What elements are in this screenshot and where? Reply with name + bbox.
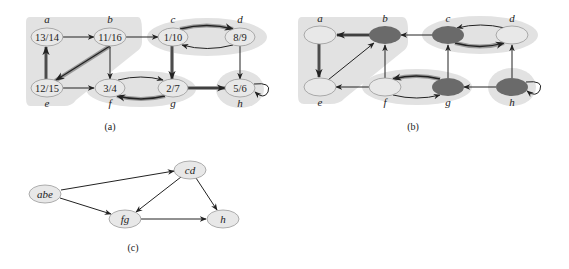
node-abe: abe [29,185,61,203]
node-h: h [207,210,239,228]
node-cd-label: cd [185,164,196,176]
node-h-times: 5/6 [233,83,246,94]
caption-a: (a) [104,121,115,133]
panel-a: 13/14 a 11/16 b 1/10 c 8/9 d 12/15 e 3/4… [26,13,269,133]
node-fg: fg [109,210,141,228]
caption-c: (c) [127,242,138,254]
node-b-label: b [107,13,113,25]
node-e-times: 12/15 [35,83,59,94]
edge-cd-fg [136,177,181,212]
node-abe-label: abe [37,188,53,200]
panel-b: a b c d e f g h (b) [298,12,541,133]
node-h-label: h [509,96,515,108]
node-g-times: 2/7 [166,83,179,94]
edge-cd-h [196,178,217,210]
scc-figure: 13/14 a 11/16 b 1/10 c 8/9 d 12/15 e 3/4… [0,0,569,269]
node-c-times: 1/10 [164,32,183,43]
node-d-label: d [237,13,243,25]
node-c-label: c [171,13,176,25]
node-d-label: d [509,12,515,24]
node-c-label: c [446,12,451,24]
node-fg-label: fg [121,213,130,225]
node-h-label: h [237,97,243,109]
edge-abe-fg [60,198,111,214]
node-cd: cd [174,161,206,179]
panel-c: abe cd fg h (c) [29,161,239,254]
node-b-label: b [382,12,388,24]
node-a-times: 13/14 [35,32,60,43]
node-g-label: g [170,97,176,109]
node-e-label: e [318,96,323,108]
caption-b: (b) [407,121,419,133]
node-a-label: a [44,13,50,25]
node-h-label: h [220,213,226,225]
node-f-times: 3/4 [103,83,117,94]
node-b-times: 11/16 [98,32,122,43]
edge-abe-cd [61,171,174,190]
node-e-label: e [45,97,50,109]
node-g-label: g [445,96,451,108]
node-d-times: 8/9 [233,32,246,43]
node-a-label: a [317,12,323,24]
